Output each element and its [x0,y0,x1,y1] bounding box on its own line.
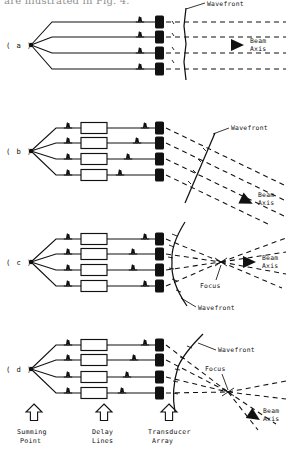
panel-c-input-pulses [64,234,72,287]
panel-d: ( d ) [6,334,286,430]
panel-d-beam-axis-label-1: Beam [263,407,279,415]
panel-c-wavefront-label: Wavefront [198,304,235,312]
up-arrow-icon [96,404,112,421]
panel-a-beam-axis: Beam Axis [231,37,266,53]
legend-transducer-array-line2: Array [152,437,173,445]
panel-a-label: ( a ) [6,41,32,50]
panel-c-output-pulses [129,234,149,287]
panel-a-beam-axis-label-2: Axis [250,45,266,53]
panel-b-summing-point [29,128,160,175]
panel-d-input-pulses [64,340,72,394]
figure-root: are illustrated in Fig. 4. ( a ) [0,0,290,449]
panel-c-delay-lines [81,234,107,292]
panel-d-transducer-array [155,339,164,400]
panel-d-output-pulses [118,340,149,394]
panel-d-focus-label: Focus [205,365,226,373]
up-arrow-icon [26,404,42,421]
legend-summing-point-line2: Point [20,437,41,445]
panel-d-delay-lines [81,340,107,399]
legend-summing-point-line1: Summing [17,428,47,436]
panel-a: ( a ) [6,0,286,80]
panel-c-beam-axis-label-1: Beam [262,254,278,262]
panel-b-transducer-array [155,122,164,182]
panel-b-label: ( b ) [6,147,32,156]
figure-canvas: ( a ) [0,0,290,449]
panel-b-beam-axis-label-1: Beam [258,191,274,199]
panel-b-wavefront [185,133,215,203]
panel-b-wavefront-label: Wavefront [231,124,268,132]
panel-b-rays [166,128,286,225]
panel-c-summing-point [29,239,160,286]
legend-item-transducer-array: Transducer Array [148,404,191,445]
panel-a-transducer-array [155,16,164,76]
figure-legend: Summing Point Delay Lines Transducer Arr… [17,404,191,445]
legend-item-summing-point: Summing Point [17,404,47,445]
panel-d-wavefront [173,334,203,412]
panel-b-delay-lines [81,123,107,181]
legend-delay-lines-line2: Lines [92,437,113,445]
panel-b-beam-axis: Beam Axis [238,191,274,209]
panel-d-wavefront-label: Wavefront [218,346,255,354]
panel-d-focus: Focus [205,365,234,396]
panel-b-wavefront-callout: Wavefront [213,124,268,134]
panel-d-label: ( d ) [6,365,32,374]
panel-c-wavefront [168,222,187,306]
panel-c: ( c ) [6,222,286,312]
panel-d-summing-point [29,345,160,393]
panel-a-wavefront-label: Wavefront [207,0,244,8]
panel-a-summing-point [29,22,160,69]
panel-d-wavefront-callout: Wavefront [198,343,255,354]
panel-c-wavefront-callout: Wavefront [181,298,235,312]
panel-c-focus-label: Focus [200,282,221,290]
panel-c-label: ( c ) [6,258,32,267]
panel-b-beam-axis-label-2: Axis [258,199,274,207]
legend-delay-lines-line1: Delay [92,428,113,436]
panel-b-input-pulses [64,123,72,176]
panel-c-transducer-array [155,233,164,293]
panel-b-output-pulses [116,123,149,176]
panel-d-beam-axis-label-2: Axis [263,415,279,423]
panel-a-pulses [136,17,144,70]
panel-c-beam-axis-label-2: Axis [262,262,278,270]
panel-a-wavefront-callout: Wavefront [186,0,244,9]
legend-transducer-array-line1: Transducer [148,428,191,436]
panel-a-beam-axis-label-1: Beam [250,37,266,45]
panel-d-beam-axis: Beam Axis [246,407,280,425]
legend-item-delay-lines: Delay Lines [92,404,113,445]
panel-b: ( b ) [6,122,286,226]
